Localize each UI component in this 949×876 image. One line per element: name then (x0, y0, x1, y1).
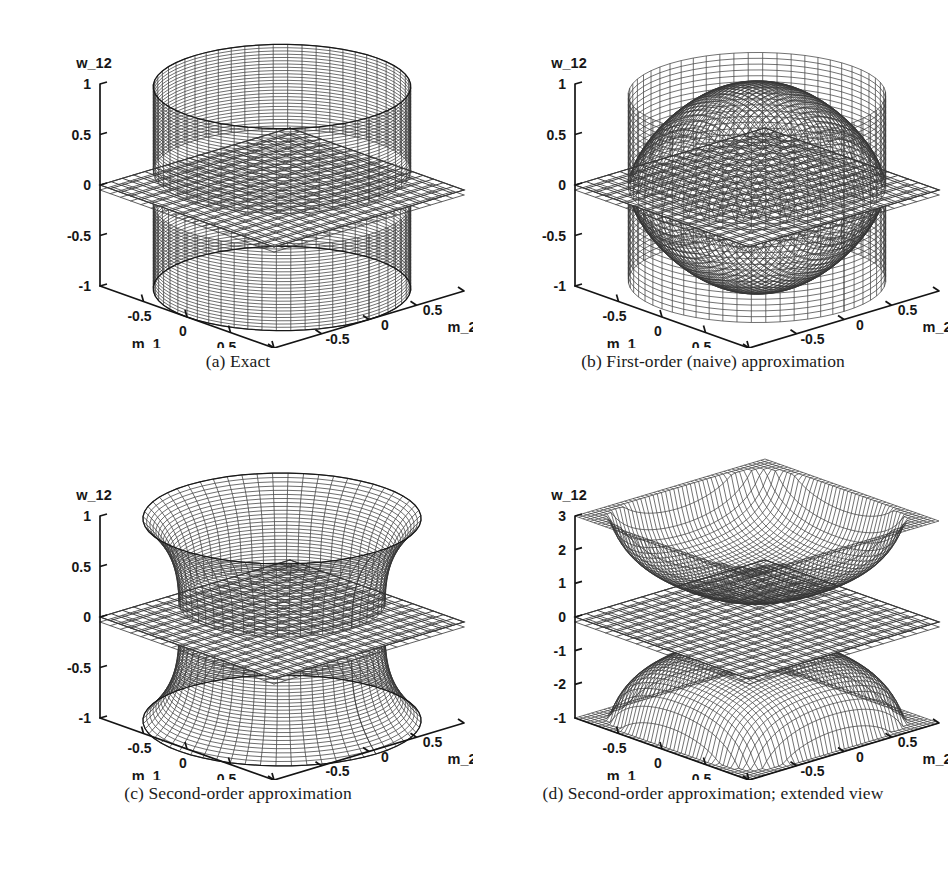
caption-b: (b) First-order (naive) approximation (483, 350, 943, 373)
x-tick-label: -0.5 (127, 740, 151, 756)
surface-plot-d: 3210-1-2-1-0.500.51-1-0.500.51w_12m_1m_2 (483, 450, 948, 780)
y-tick-label: -0.5 (800, 763, 824, 779)
y-tick-label: 0 (856, 749, 864, 765)
z-tick-label: 0.5 (72, 559, 92, 575)
surface-plot-svg-c: 10.50-0.5-1-0.500.51-1-0.500.51w_12m_1m_… (8, 450, 473, 780)
y-tick-label: -0.5 (325, 763, 349, 779)
y-tick-label: -0.5 (800, 331, 824, 347)
zero-plane-mesh (575, 560, 939, 684)
z-tick-label: 1 (83, 508, 91, 524)
page-number (855, 0, 915, 12)
z-tick-label: -0.5 (67, 660, 91, 676)
z-tick-label: 1 (558, 575, 566, 591)
surface-plot-svg-b: 10.50-0.5-1-0.500.51-1-0.500.51w_12m_1m_… (483, 18, 948, 348)
x-axis-label: m_1 (132, 768, 161, 780)
y-axis-label: m_2 (922, 319, 948, 335)
z-tick-label: 0.5 (547, 127, 567, 143)
surface-plot-b: 10.50-0.5-1-0.500.51-1-0.500.51w_12m_1m_… (483, 18, 948, 348)
y-tick-label: -1 (284, 345, 297, 348)
x-tick-label: -0.5 (127, 308, 151, 324)
surface-plot-c: 10.50-0.5-1-0.500.51-1-0.500.51w_12m_1m_… (8, 450, 473, 780)
y-tick-label: 0.5 (423, 734, 443, 750)
x-tick-label: -0.5 (602, 308, 626, 324)
y-tick-label: 0.5 (898, 734, 918, 750)
x-axis-origin-label: -1 (554, 710, 567, 726)
z-tick-label: 1 (558, 76, 566, 92)
z-tick-label: 3 (558, 508, 566, 524)
y-tick-label: -1 (759, 345, 772, 348)
x-tick-label: 0.5 (692, 771, 712, 781)
z-tick-label: 0 (558, 609, 566, 625)
x-axis-label: m_1 (607, 768, 636, 780)
z-tick-label: -0.5 (542, 228, 566, 244)
z-axis-label: w_12 (75, 55, 111, 71)
x-tick-label: -0.5 (602, 740, 626, 756)
caption-d: (d) Second-order approximation; extended… (483, 782, 943, 805)
y-tick-label: 0 (381, 317, 389, 333)
x-axis-label: m_1 (607, 336, 636, 348)
x-tick-label: 0 (654, 755, 662, 771)
z-tick-label: 0 (83, 177, 91, 193)
y-axis-label: m_2 (922, 751, 948, 767)
caption-a: (a) Exact (8, 350, 468, 373)
x-tick-label: 0 (654, 323, 662, 339)
surface-plot-svg-d: 3210-1-2-1-0.500.51-1-0.500.51w_12m_1m_2 (483, 450, 948, 780)
x-axis-label: m_1 (132, 336, 161, 348)
y-tick-label: 0 (381, 749, 389, 765)
z-axis-label: w_12 (550, 55, 586, 71)
z-tick-label: 0 (558, 177, 566, 193)
y-tick-label: -0.5 (325, 331, 349, 347)
z-tick-label: -1 (79, 710, 92, 726)
figure-panel-grid: 10.50-0.5-1-0.500.51-1-0.500.51w_12m_1m_… (0, 0, 949, 876)
surface-plot-a: 10.50-0.5-1-0.500.51-1-0.500.51w_12m_1m_… (8, 18, 473, 348)
y-tick-label: 0.5 (423, 302, 443, 318)
z-tick-label: 0 (83, 609, 91, 625)
z-tick-label: -2 (554, 676, 567, 692)
z-tick-label: 2 (558, 542, 566, 558)
z-tick-label: -1 (554, 643, 567, 659)
y-tick-label: -1 (759, 777, 772, 780)
y-tick-label: 0 (856, 317, 864, 333)
y-tick-label: 0.5 (898, 302, 918, 318)
y-tick-label: -1 (284, 777, 297, 780)
x-tick-label: 0.5 (217, 771, 237, 781)
y-axis-label: m_2 (447, 751, 473, 767)
z-tick-label: -0.5 (67, 228, 91, 244)
zero-plane-mesh (100, 560, 464, 684)
z-tick-label: -1 (79, 278, 92, 294)
z-tick-label: -1 (554, 278, 567, 294)
z-axis-label: w_12 (75, 487, 111, 503)
surface-plot-svg-a: 10.50-0.5-1-0.500.51-1-0.500.51w_12m_1m_… (8, 18, 473, 348)
caption-c: (c) Second-order approximation (8, 782, 468, 805)
x-tick-label: 0 (179, 755, 187, 771)
z-axis-label: w_12 (550, 487, 586, 503)
x-tick-label: 0.5 (692, 339, 712, 349)
z-tick-label: 0.5 (72, 127, 92, 143)
y-axis-label: m_2 (447, 319, 473, 335)
x-tick-label: 0 (179, 323, 187, 339)
x-tick-label: 0.5 (217, 339, 237, 349)
z-tick-label: 1 (83, 76, 91, 92)
